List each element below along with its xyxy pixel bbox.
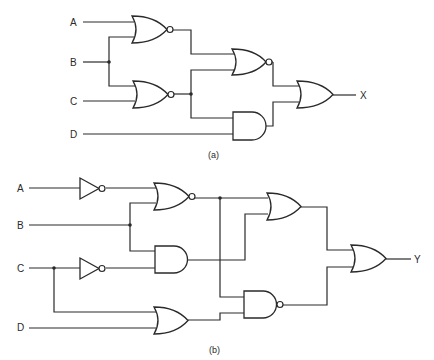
nor-gate-a1 xyxy=(132,16,173,43)
junction-dot xyxy=(107,60,111,64)
output-label-Y: Y xyxy=(414,254,421,265)
nand-gate-b xyxy=(244,291,283,318)
not-gate-b1 xyxy=(80,178,105,199)
input-label-a-C: C xyxy=(70,96,77,107)
or-gate-a-final xyxy=(297,81,333,108)
output-label-X: X xyxy=(360,90,367,101)
junction-dot xyxy=(189,92,193,96)
and-gate-b xyxy=(155,246,188,273)
junction-dot xyxy=(218,196,222,200)
nor-gate-b xyxy=(154,183,195,210)
diagram-b: A B C D xyxy=(17,178,421,355)
junction-dot xyxy=(52,266,56,270)
input-label-b-A: A xyxy=(17,183,24,194)
and-gate-a xyxy=(233,112,266,140)
nor-gate-a2 xyxy=(133,81,174,108)
input-label-b-B: B xyxy=(17,220,24,231)
or-gate-b-final xyxy=(351,245,386,272)
caption-b: (b) xyxy=(209,345,220,355)
input-label-b-C: C xyxy=(17,263,24,274)
caption-a: (a) xyxy=(208,150,219,160)
wires-a xyxy=(83,22,356,134)
diagram-a: A B C D xyxy=(70,16,367,160)
input-label-a-A: A xyxy=(70,17,77,28)
or-gate-b-lower xyxy=(154,307,188,334)
nor-gate-a3 xyxy=(232,49,272,75)
wires-b xyxy=(29,188,411,328)
logic-circuit-diagrams: A B C D xyxy=(0,0,434,360)
not-gate-b2 xyxy=(80,258,105,279)
junction-dot xyxy=(128,223,132,227)
input-label-a-D: D xyxy=(70,129,77,140)
input-label-a-B: B xyxy=(70,57,77,68)
input-label-b-D: D xyxy=(17,322,24,333)
or-gate-b-upper xyxy=(267,193,301,220)
